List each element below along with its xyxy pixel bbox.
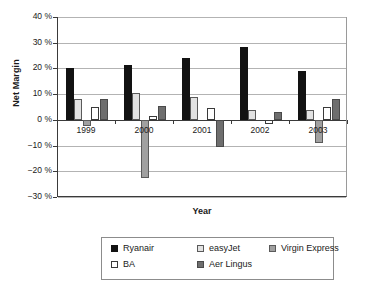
bar-easyjet-2000[interactable] bbox=[132, 93, 140, 120]
y-tick-label: 30 % bbox=[6, 37, 52, 47]
bar-ba-2003[interactable] bbox=[323, 107, 331, 120]
net-margin-bar-chart: Net Margin 40 %30 %20 %10 %0 %−10 %−20 %… bbox=[0, 0, 370, 290]
bar-ba-1999[interactable] bbox=[91, 107, 99, 120]
legend-swatch-virgin bbox=[269, 245, 276, 252]
bar-group-2001 bbox=[174, 17, 232, 196]
bar-aerlingus-2001[interactable] bbox=[216, 120, 224, 147]
x-tick-mark bbox=[173, 120, 174, 124]
bar-group-2002 bbox=[232, 17, 290, 196]
bar-aerlingus-2003[interactable] bbox=[332, 99, 340, 120]
y-tick-mark bbox=[53, 197, 57, 198]
legend-swatch-easyjet bbox=[197, 245, 204, 252]
y-tick-label: 20 % bbox=[6, 62, 52, 72]
x-category-label-2001: 2001 bbox=[193, 125, 212, 135]
y-tick-label: −30 % bbox=[6, 191, 52, 201]
bar-ryanair-2001[interactable] bbox=[182, 58, 190, 120]
x-category-label-2003: 2003 bbox=[309, 125, 328, 135]
legend-item-ba[interactable]: BA bbox=[111, 259, 135, 269]
y-tick-label: 0 % bbox=[6, 114, 52, 124]
legend-item-aerlingus[interactable]: Aer Lingus bbox=[197, 259, 252, 269]
plot-area bbox=[57, 17, 347, 197]
bar-easyjet-2003[interactable] bbox=[306, 110, 314, 120]
x-tick-mark bbox=[115, 120, 116, 124]
bar-ryanair-1999[interactable] bbox=[66, 68, 74, 119]
x-tick-mark bbox=[57, 120, 58, 124]
legend-swatch-aerlingus bbox=[197, 261, 204, 268]
legend-label-virgin: Virgin Express bbox=[281, 243, 339, 253]
bar-ba-2002[interactable] bbox=[265, 120, 273, 124]
bar-easyjet-2002[interactable] bbox=[248, 110, 256, 120]
bar-ba-2000[interactable] bbox=[149, 116, 157, 120]
bar-ryanair-2003[interactable] bbox=[298, 71, 306, 120]
bar-ryanair-2000[interactable] bbox=[124, 65, 132, 120]
bar-ba-2001[interactable] bbox=[207, 108, 215, 120]
bar-aerlingus-2002[interactable] bbox=[274, 112, 282, 120]
bar-easyjet-2001[interactable] bbox=[190, 97, 198, 120]
x-category-label-2000: 2000 bbox=[135, 125, 154, 135]
bar-easyjet-1999[interactable] bbox=[74, 99, 82, 120]
legend-swatch-ryanair bbox=[111, 245, 118, 252]
bar-group-1999 bbox=[58, 17, 116, 196]
legend-item-easyjet[interactable]: easyJet bbox=[197, 243, 240, 253]
legend-label-ba: BA bbox=[123, 259, 135, 269]
bar-aerlingus-1999[interactable] bbox=[100, 99, 108, 120]
y-tick-label: −20 % bbox=[6, 165, 52, 175]
legend-label-ryanair: Ryanair bbox=[123, 243, 154, 253]
y-tick-label: 40 % bbox=[6, 11, 52, 21]
x-category-label-2002: 2002 bbox=[251, 125, 270, 135]
gridline--30 bbox=[58, 197, 346, 198]
y-tick-label: −10 % bbox=[6, 140, 52, 150]
x-tick-mark bbox=[347, 120, 348, 124]
bar-ryanair-2002[interactable] bbox=[240, 47, 248, 120]
legend-item-ryanair[interactable]: Ryanair bbox=[111, 243, 154, 253]
bar-group-2000 bbox=[116, 17, 174, 196]
chart-legend: RyanaireasyJetVirgin ExpressBAAer Lingus bbox=[101, 237, 334, 280]
x-tick-mark bbox=[289, 120, 290, 124]
x-tick-mark bbox=[231, 120, 232, 124]
y-tick-label: 10 % bbox=[6, 88, 52, 98]
legend-label-easyjet: easyJet bbox=[209, 243, 240, 253]
bar-aerlingus-2000[interactable] bbox=[158, 106, 166, 120]
legend-item-virgin[interactable]: Virgin Express bbox=[269, 243, 339, 253]
legend-swatch-ba bbox=[111, 261, 118, 268]
x-axis-title: Year bbox=[57, 206, 347, 216]
legend-label-aerlingus: Aer Lingus bbox=[209, 259, 252, 269]
bar-group-2003 bbox=[290, 17, 348, 196]
x-category-label-1999: 1999 bbox=[77, 125, 96, 135]
y-axis-title: Net Margin bbox=[11, 43, 21, 123]
